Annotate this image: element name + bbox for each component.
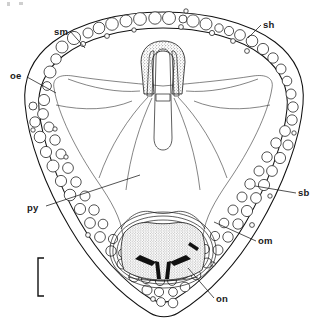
- fold-line-right-upper: [186, 79, 258, 91]
- strand-right-outer: [178, 97, 227, 178]
- leader-on: [188, 268, 214, 298]
- label-py: py: [27, 202, 39, 213]
- scale-bar-group: [38, 258, 44, 296]
- fold-line-left-upper: [68, 79, 140, 91]
- scan-artifact: [7, 2, 23, 6]
- anatomical-diagram-svg: sm sh oe sb py om on: [0, 0, 326, 330]
- fold-line-right-lower: [194, 101, 270, 109]
- cone-base-block: [156, 94, 170, 101]
- figure-root: sm sh oe sb py om on: [0, 0, 326, 330]
- strand-right-inner: [174, 98, 200, 190]
- label-sm: sm: [54, 26, 68, 37]
- label-oe: oe: [10, 70, 22, 81]
- strand-left-inner: [126, 98, 152, 190]
- apical-cone-group: [141, 41, 185, 150]
- strand-left-outer: [99, 97, 148, 178]
- label-sb: sb: [298, 187, 310, 198]
- fold-line-left-lower: [56, 101, 132, 109]
- scale-bar: [38, 258, 44, 296]
- label-sh: sh: [263, 19, 275, 30]
- central-channel: [154, 49, 172, 150]
- label-om: om: [258, 235, 273, 246]
- label-on: on: [216, 293, 228, 304]
- organ-stipple-mass: [121, 222, 205, 280]
